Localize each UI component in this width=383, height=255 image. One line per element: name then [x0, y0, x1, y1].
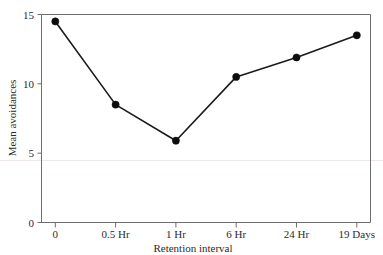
- chart-figure: 15 10 5 0 0 0.5 Hr 1 Hr 6 Hr 24 Hr 19 Da…: [0, 0, 383, 255]
- x-axis-ticks: [55, 223, 357, 228]
- x-axis-title: Retention interval: [153, 242, 232, 254]
- x-tick-label-0: 0: [53, 228, 59, 240]
- y-tick-label-15: 15: [23, 9, 35, 21]
- x-tick-label-3: 6 Hr: [226, 228, 246, 240]
- x-tick-label-2: 1 Hr: [166, 228, 186, 240]
- line-chart-svg: 15 10 5 0 0 0.5 Hr 1 Hr 6 Hr 24 Hr 19 Da…: [0, 0, 383, 255]
- y-axis-tick-labels: 15 10 5 0: [23, 9, 35, 229]
- x-axis-tick-labels: 0 0.5 Hr 1 Hr 6 Hr 24 Hr 19 Days: [53, 228, 375, 240]
- y-tick-label-10: 10: [23, 78, 35, 90]
- y-tick-label-0: 0: [29, 217, 35, 229]
- y-tick-label-5: 5: [29, 147, 35, 159]
- data-point: [293, 54, 300, 61]
- data-series-line: [55, 21, 357, 140]
- data-point: [353, 32, 360, 39]
- x-tick-label-1: 0.5 Hr: [102, 228, 130, 240]
- y-axis-title: Mean avoidances: [6, 80, 18, 157]
- y-axis-ticks: [38, 15, 42, 223]
- x-tick-label-4: 24 Hr: [284, 228, 310, 240]
- data-point: [112, 101, 119, 108]
- data-point: [172, 137, 179, 144]
- x-tick-label-5: 19 Days: [339, 228, 375, 240]
- data-point: [233, 73, 240, 80]
- data-point: [52, 18, 59, 25]
